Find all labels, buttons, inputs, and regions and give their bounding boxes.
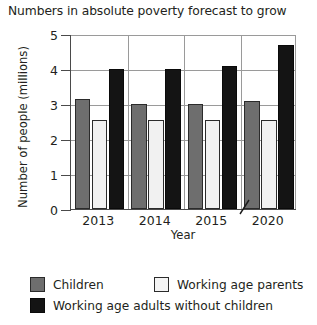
bar-2015-children	[188, 104, 204, 209]
legend-label-children: Children	[53, 278, 104, 292]
legend-swatch-working-age-adults	[30, 298, 45, 313]
y-tick-0	[61, 210, 71, 211]
legend-item-working-age-parents: Working age parents	[154, 277, 303, 292]
legend-label-working-age-adults: Working age adults without children	[53, 299, 273, 313]
y-tick-1	[61, 175, 71, 176]
y-tick-label-1: 1	[36, 168, 58, 183]
legend-item-working-age-adults: Working age adults without children	[30, 298, 273, 313]
y-tick-label-3: 3	[36, 98, 58, 113]
bar-2014-working-age-parents	[148, 120, 164, 209]
bar-2013-working-age-parents	[92, 120, 108, 209]
x-axis-label-2014: 2014	[139, 213, 171, 228]
axis-break-icon	[238, 198, 252, 216]
y-tick-4	[61, 70, 71, 71]
y-tick-5	[61, 35, 71, 36]
bar-2013-children	[75, 99, 91, 209]
legend-swatch-working-age-parents	[154, 277, 169, 292]
chart-legend: Children Working age parents Working age…	[30, 274, 310, 316]
x-axis-title: Year	[70, 228, 296, 242]
plot-area: 012345	[70, 35, 296, 210]
bar-chart: Numbers in absolute poverty forecast to …	[0, 0, 317, 325]
legend-swatch-children	[30, 277, 45, 292]
x-axis-label-2013: 2013	[82, 213, 114, 228]
bar-2020-children	[244, 101, 260, 210]
bar-2015-working-age-adults-without-children	[222, 66, 238, 210]
chart-title: Numbers in absolute poverty forecast to …	[8, 4, 313, 19]
x-axis-label-2020: 2020	[252, 213, 284, 228]
bar-2020-working-age-parents	[261, 120, 277, 209]
y-tick-label-0: 0	[36, 203, 58, 218]
y-tick-label-4: 4	[36, 63, 58, 78]
bar-2013-working-age-adults-without-children	[109, 69, 125, 209]
bar-2014-children	[131, 104, 147, 209]
y-tick-label-5: 5	[36, 28, 58, 43]
bar-2015-working-age-parents	[205, 120, 221, 209]
bars-layer	[71, 35, 296, 209]
legend-row-1: Children Working age parents	[30, 274, 310, 295]
legend-label-working-age-parents: Working age parents	[177, 278, 303, 292]
bar-2020-working-age-adults-without-children	[278, 45, 294, 210]
x-axis-label-2015: 2015	[195, 213, 227, 228]
y-tick-3	[61, 105, 71, 106]
y-tick-label-2: 2	[36, 133, 58, 148]
y-axis-title: Number of people (millions)	[16, 42, 30, 212]
legend-item-children: Children	[30, 277, 154, 292]
y-tick-2	[61, 140, 71, 141]
bar-2014-working-age-adults-without-children	[165, 69, 181, 209]
legend-row-2: Working age adults without children	[30, 295, 310, 316]
